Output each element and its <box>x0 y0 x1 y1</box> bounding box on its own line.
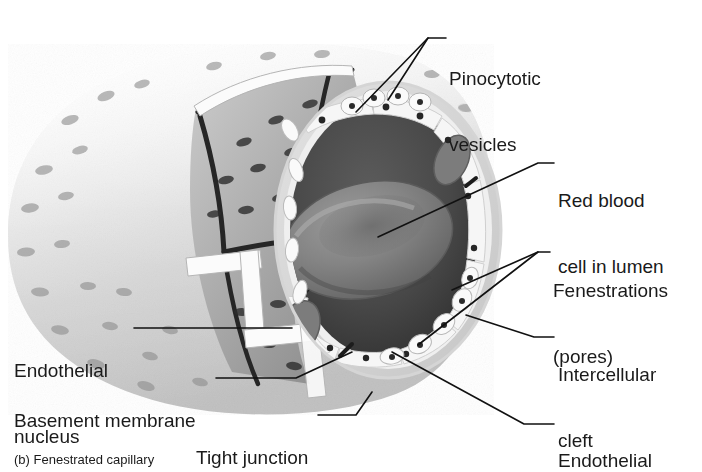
label-line-2: vesicles <box>449 134 541 156</box>
label-line-1: Pinocytotic <box>449 68 541 90</box>
label-pinocytotic-vesicles: Pinocytotic vesicles <box>449 24 541 200</box>
label-line-1: Intercellular <box>558 364 656 386</box>
figure-caption: (b) Fenestrated capillary <box>14 452 694 470</box>
label-line-1: Red blood <box>558 190 664 212</box>
label-line-1: Basement membrane <box>14 410 196 432</box>
label-line-1: Fenestrations <box>553 280 668 302</box>
figure-canvas: Pinocytotic vesicles Red blood cell in l… <box>0 0 702 472</box>
